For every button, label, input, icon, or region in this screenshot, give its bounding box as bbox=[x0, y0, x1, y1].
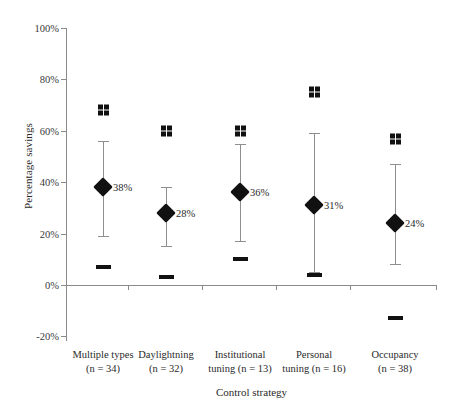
mean-diamond-marker bbox=[385, 213, 405, 233]
y-tick-label-20: 20% bbox=[40, 228, 59, 239]
error-bar-cap-upper bbox=[309, 133, 320, 134]
x-tick-3 bbox=[276, 285, 277, 290]
mean-value-label: 36% bbox=[250, 187, 269, 198]
x-tick-5 bbox=[436, 285, 437, 290]
max-marker-icon bbox=[161, 125, 172, 136]
max-marker-icon bbox=[235, 125, 246, 136]
min-marker-icon bbox=[233, 257, 248, 261]
error-bar-cap-upper bbox=[98, 141, 109, 142]
mean-diamond-marker bbox=[304, 195, 324, 215]
x-axis-title: Control strategy bbox=[66, 386, 437, 398]
error-bar-cap-upper bbox=[390, 164, 401, 165]
percentage-savings-chart: Percentage savings 100% 80% 60% 40% 20% … bbox=[0, 0, 449, 416]
category-sample-size: tuning (n = 16) bbox=[266, 362, 362, 376]
mean-value-label: 38% bbox=[113, 182, 132, 193]
mean-value-label: 31% bbox=[324, 200, 343, 211]
mean-diamond-marker bbox=[156, 203, 176, 223]
y-tick-label-60: 60% bbox=[40, 125, 59, 136]
max-marker-icon bbox=[390, 133, 401, 144]
x-axis-category-labels: Multiple types(n = 34)Daylightning(n = 3… bbox=[66, 348, 437, 384]
y-tick-label-neg20: -20% bbox=[36, 331, 59, 342]
category-name: Personal bbox=[266, 348, 362, 362]
min-marker-icon bbox=[159, 275, 174, 279]
category-name: Occupancy bbox=[355, 348, 435, 362]
max-marker-icon bbox=[309, 87, 320, 98]
y-axis-spine bbox=[66, 28, 67, 341]
plot-area: 100% 80% 60% 40% 20% 0% -20% bbox=[66, 24, 437, 341]
error-bar-cap-lower bbox=[390, 264, 401, 265]
min-marker-icon bbox=[307, 273, 322, 277]
category-sample-size: (n = 38) bbox=[355, 362, 435, 376]
mean-value-label: 28% bbox=[176, 208, 195, 219]
max-marker-icon bbox=[98, 105, 109, 116]
error-bar-cap-upper bbox=[235, 144, 246, 145]
min-marker-icon bbox=[388, 316, 403, 320]
y-axis-title: Percentage savings bbox=[22, 86, 34, 246]
min-marker-icon bbox=[96, 265, 111, 269]
mean-diamond-marker bbox=[93, 177, 113, 197]
y-tick-label-80: 80% bbox=[40, 74, 59, 85]
x-category-label-5: Occupancy(n = 38) bbox=[355, 348, 435, 376]
x-tick-4 bbox=[350, 285, 351, 290]
y-tick-label-40: 40% bbox=[40, 177, 59, 188]
x-category-label-4: Personaltuning (n = 16) bbox=[266, 348, 362, 376]
x-tick-1 bbox=[128, 285, 129, 290]
error-bar-cap-lower bbox=[98, 236, 109, 237]
error-bar-cap-upper bbox=[161, 187, 172, 188]
mean-value-label: 24% bbox=[405, 218, 424, 229]
mean-diamond-marker bbox=[230, 183, 250, 203]
x-axis-zero-line bbox=[66, 285, 437, 286]
error-bar-cap-lower bbox=[235, 241, 246, 242]
y-tick-label-0: 0% bbox=[45, 280, 59, 291]
y-tick-label-100: 100% bbox=[35, 23, 60, 34]
error-bar-cap-lower bbox=[161, 246, 172, 247]
x-tick-2 bbox=[202, 285, 203, 290]
